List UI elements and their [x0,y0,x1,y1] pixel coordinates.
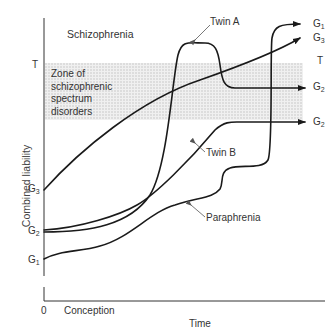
left-tick-t: T [32,59,38,71]
right-label-g2-lower: G2 [313,116,325,131]
axes [44,18,325,301]
zone-label-line-4: disorders [51,106,112,119]
zone-label-line-2: schizophrenic [51,81,112,94]
twin-b-label: Twin B [206,147,236,159]
paraphrenia-label: Paraphrenia [206,212,260,224]
paraphrenia-pointer [191,205,205,217]
twin-a-label: Twin A [210,16,239,28]
right-label-g1: G1 [313,18,325,33]
x-origin-label: 0 [41,305,47,317]
left-tick-g1: G1 [28,254,40,269]
left-tick-g2: G2 [28,225,40,240]
right-label-g3: G3 [313,32,325,47]
schizophrenia-label: Schizophrenia [67,28,134,40]
x-start-label: Conception [64,305,115,317]
zone-label: Zone of schizophrenic spectrum disorders [51,68,112,118]
x-axis-label: Time [189,318,211,330]
right-label-g2-upper: G2 [313,81,325,96]
right-label-t: T [317,55,323,67]
left-tick-g3: G3 [28,183,40,198]
zone-label-line-3: spectrum [51,93,112,106]
curve-twin-b [44,122,305,230]
zone-label-line-1: Zone of [51,68,112,81]
twin-a-pointer [195,25,210,40]
diagram-canvas [0,0,335,332]
